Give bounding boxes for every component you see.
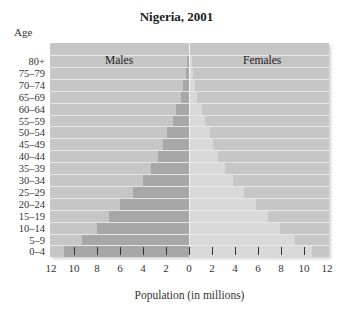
x-tick-mark [235, 247, 236, 255]
female-bar [190, 104, 202, 115]
female-bar [190, 235, 295, 246]
age-group-label: 30–34 [19, 175, 45, 186]
x-tick-mark [212, 247, 213, 255]
age-group-label: 75–79 [19, 68, 45, 79]
x-tick-mark [189, 247, 190, 255]
x-tick-mark [281, 247, 282, 255]
x-tick-label: 4 [140, 262, 146, 274]
age-group-label: 20–24 [19, 199, 45, 210]
female-bar [190, 68, 193, 79]
x-tick-label: 10 [299, 262, 310, 274]
x-tick-label: 2 [209, 262, 215, 274]
male-bar [176, 104, 189, 115]
age-group-label: 40–44 [19, 151, 45, 162]
female-bar [190, 163, 225, 174]
female-bar [190, 223, 280, 234]
female-bar [190, 211, 268, 222]
x-tick-label: 12 [322, 262, 333, 274]
female-bar [190, 56, 192, 67]
age-group-label: 10–14 [19, 223, 45, 234]
male-bar [64, 246, 189, 257]
x-tick-label: 10 [69, 262, 80, 274]
legend-males: Males [105, 54, 133, 66]
x-tick-mark [166, 247, 167, 255]
x-axis-label: Population (in millions) [0, 289, 353, 301]
male-bar [133, 187, 189, 198]
x-tick-label: 8 [94, 262, 100, 274]
x-tick-label: 6 [255, 262, 261, 274]
male-bar [97, 223, 189, 234]
age-group-label: 35–39 [19, 163, 45, 174]
x-tick-mark [143, 247, 144, 255]
y-axis-label: Age [14, 26, 32, 38]
female-bar [190, 92, 197, 103]
chart-title: Nigeria, 2001 [0, 9, 353, 25]
x-tick-label: 12 [46, 262, 57, 274]
age-group-label: 0–4 [29, 246, 45, 257]
legend-females: Females [243, 54, 281, 66]
x-tick-mark [258, 247, 259, 255]
age-group-label: 80+ [29, 56, 45, 67]
zero-axis-line [189, 43, 190, 257]
female-bar [190, 175, 233, 186]
female-bar [190, 127, 210, 138]
male-bar [151, 163, 189, 174]
age-group-label: 50–54 [19, 127, 45, 138]
female-bar [190, 246, 312, 257]
male-bar [163, 139, 189, 150]
x-tick-label: 0 [186, 262, 192, 274]
x-tick-label: 8 [278, 262, 284, 274]
female-bar [190, 116, 205, 127]
age-group-label: 45–49 [19, 139, 45, 150]
age-group-label: 55–59 [19, 116, 45, 127]
male-bar [120, 199, 189, 210]
x-tick-mark [74, 247, 75, 255]
male-bar [109, 211, 190, 222]
age-group-label: 60–64 [19, 104, 45, 115]
x-tick-label: 6 [117, 262, 123, 274]
x-tick-mark [120, 247, 121, 255]
x-tick-label: 2 [163, 262, 169, 274]
age-group-label: 15–19 [19, 211, 45, 222]
male-bar [143, 175, 189, 186]
x-tick-label: 4 [232, 262, 238, 274]
x-tick-mark [97, 247, 98, 255]
male-bar [82, 235, 189, 246]
female-bar [190, 139, 213, 150]
age-group-label: 65–69 [19, 92, 45, 103]
female-bar [190, 199, 256, 210]
female-bar [190, 80, 195, 91]
male-bar [181, 92, 189, 103]
age-group-label: 5–9 [29, 235, 45, 246]
male-bar [158, 151, 189, 162]
age-group-label: 70–74 [19, 80, 45, 91]
male-bar [167, 127, 189, 138]
x-tick-mark [304, 247, 305, 255]
plot-area [50, 43, 329, 257]
male-bar [173, 116, 189, 127]
female-bar [190, 187, 244, 198]
age-group-label: 25–29 [19, 187, 45, 198]
female-bar [190, 151, 218, 162]
